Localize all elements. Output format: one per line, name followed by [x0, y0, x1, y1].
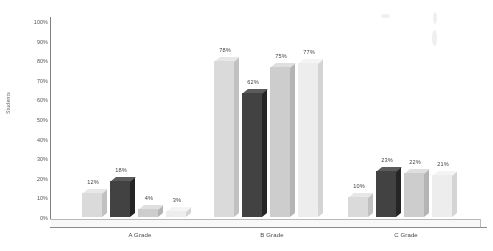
bar[interactable]: 21% — [432, 175, 452, 217]
bar-side — [318, 59, 323, 217]
y-tick-label: 50% — [20, 117, 48, 123]
bar-value-label: 75% — [266, 53, 296, 59]
y-tick-label: 90% — [20, 39, 48, 45]
bar-value-label: 10% — [344, 183, 374, 189]
bar[interactable]: 78% — [214, 61, 234, 217]
bar-face — [138, 209, 158, 217]
y-tick-label: 30% — [20, 156, 48, 162]
bar-value-label: 4% — [134, 195, 164, 201]
y-tick-label: 70% — [20, 78, 48, 84]
bar[interactable]: 10% — [348, 197, 368, 217]
bar-face — [110, 181, 130, 217]
y-tick-label: 60% — [20, 97, 48, 103]
y-tick-label: 40% — [20, 137, 48, 143]
bar-face — [432, 175, 452, 217]
bar-value-label: 21% — [428, 161, 458, 167]
bar-value-label: 23% — [372, 157, 402, 163]
plot-area: 12% 18% 4% 3% — [50, 17, 487, 227]
y-tick-label: 100% — [20, 19, 48, 25]
bar-face — [82, 193, 102, 217]
bar-face — [298, 63, 318, 217]
x-axis-baseline — [50, 227, 487, 228]
bar-value-label: 78% — [210, 47, 240, 53]
bar[interactable]: 62% — [242, 93, 262, 217]
y-tick-label: 80% — [20, 58, 48, 64]
bar-value-label: 18% — [106, 167, 136, 173]
bar[interactable]: 3% — [166, 211, 186, 217]
bar-side — [452, 171, 457, 217]
bar-face — [214, 61, 234, 217]
bar[interactable]: 4% — [138, 209, 158, 217]
bar-face — [404, 173, 424, 217]
bar-value-label: 3% — [162, 197, 192, 203]
y-tick-label: 0% — [20, 215, 48, 221]
bar-face — [270, 67, 290, 217]
bar-value-label: 12% — [78, 179, 108, 185]
bar-face — [242, 93, 262, 217]
y-tick-label: 20% — [20, 176, 48, 182]
y-axis-tick-labels: 100% 90% 80% 70% 60% 50% 40% 30% 20% 10%… — [20, 22, 48, 218]
bar[interactable]: 75% — [270, 67, 290, 217]
bar[interactable]: 18% — [110, 181, 130, 217]
bar-face — [166, 211, 186, 217]
bar[interactable]: 77% — [298, 63, 318, 217]
bar-value-label: 77% — [294, 49, 324, 55]
bar-face — [376, 171, 396, 217]
scan-artifact — [433, 12, 437, 24]
bar-group-a-grade: 12% 18% 4% 3% — [80, 17, 200, 227]
y-axis-title: Students — [5, 73, 11, 133]
bar-side — [290, 63, 295, 217]
bar-value-label: 22% — [400, 159, 430, 165]
x-axis-category-label-a: A Grade — [80, 232, 200, 238]
bar[interactable]: 22% — [404, 173, 424, 217]
y-tick-label: 10% — [20, 195, 48, 201]
scan-artifact — [381, 14, 390, 18]
bar-value-label: 62% — [238, 79, 268, 85]
grouped-bar-chart: Students 100% 90% 80% 70% 60% 50% 40% 30… — [0, 0, 493, 251]
bar-side — [424, 169, 429, 217]
scan-artifact — [432, 30, 437, 46]
bar[interactable]: 23% — [376, 171, 396, 217]
x-axis-category-label-c: C Grade — [346, 232, 466, 238]
bar-side — [396, 167, 401, 217]
bar-side — [262, 89, 267, 217]
bar-face — [348, 197, 368, 217]
bar-group-b-grade: 78% 62% 75% 77% — [212, 17, 332, 227]
x-axis-category-label-b: B Grade — [212, 232, 332, 238]
bar[interactable]: 12% — [82, 193, 102, 217]
bar-group-c-grade: 10% 23% 22% 21% — [346, 17, 466, 227]
